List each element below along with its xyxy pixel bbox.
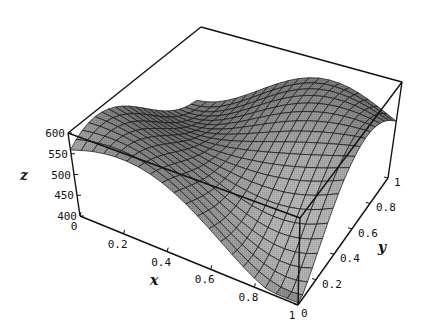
y-tick-label: 1 xyxy=(394,176,401,189)
x-tick-label: 0.4 xyxy=(151,256,171,269)
surface-mesh xyxy=(70,78,396,303)
y-tick-mark xyxy=(312,279,316,280)
z-tick-label: 550 xyxy=(48,148,68,161)
x-tick-mark xyxy=(211,265,212,269)
y-tick-mark xyxy=(366,202,370,203)
y-tick-label: 0.2 xyxy=(322,278,342,291)
x-tick-label: 0.8 xyxy=(238,291,258,304)
y-tick-label: 0.4 xyxy=(340,252,360,265)
z-tick-label: 600 xyxy=(45,127,65,140)
x-tick-mark xyxy=(254,283,255,287)
x-tick-label: 0.2 xyxy=(108,238,128,251)
y-tick-mark xyxy=(330,253,334,254)
y-axis-label: y xyxy=(377,239,387,255)
z-axis-label: z xyxy=(19,167,29,183)
x-tick-label: 1 xyxy=(289,309,296,322)
z-tick-label: 450 xyxy=(54,189,74,202)
x-tick-mark xyxy=(124,230,125,234)
y-tick-label: 0.6 xyxy=(358,227,378,240)
y-tick-mark xyxy=(348,228,352,229)
surface-plot: 00.20.40.60.810.20.40.60.810400450500550… xyxy=(0,0,424,333)
box-edge xyxy=(388,82,402,178)
y-tick-label: 0 xyxy=(301,307,308,320)
y-tick-mark xyxy=(384,177,388,178)
x-tick-mark xyxy=(167,248,168,252)
z-tick-label: 400 xyxy=(57,210,77,223)
y-tick-label: 0.8 xyxy=(376,201,396,214)
x-tick-label: 0.6 xyxy=(195,273,215,286)
x-axis-label: x xyxy=(149,272,159,288)
z-tick-label: 500 xyxy=(51,169,71,182)
box-edge xyxy=(201,27,402,82)
